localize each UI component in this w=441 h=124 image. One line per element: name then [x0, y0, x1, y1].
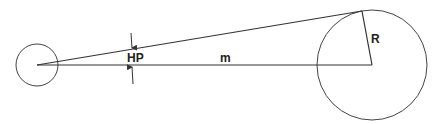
angle-arrow-bottom	[132, 67, 133, 84]
label-m: m	[220, 51, 231, 65]
tangent-line	[37, 11, 362, 65]
label-hp: HP	[127, 51, 144, 65]
parallax-diagram: HP m R	[0, 0, 441, 124]
angle-arrow-top	[131, 33, 132, 48]
label-r: R	[371, 32, 380, 46]
